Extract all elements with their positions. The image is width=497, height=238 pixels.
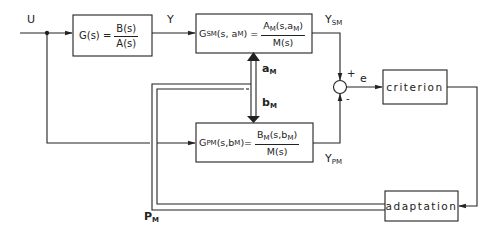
adaptation-label: adaptation (385, 191, 458, 221)
error-label: e (360, 73, 367, 84)
summing-junction (334, 81, 347, 94)
sm-output-label: YSM (325, 14, 342, 27)
criterion-label: criterion (383, 70, 447, 104)
param-a-label: aM (262, 63, 276, 76)
input-label: U (27, 14, 35, 25)
param-p-label: PM (144, 211, 159, 224)
criterion-output-line (447, 87, 477, 206)
series-model-fraction: AM(s,aM) M(s) (261, 21, 305, 48)
plant-fraction: B(s) A(s) (114, 24, 138, 49)
parallel-model-fraction: BM(s,bM) M(s) (255, 130, 299, 157)
sum-plus-sign: + (347, 69, 355, 79)
parallel-model-transfer-function: GPM(s,bM)= BM(s,bM) M(s) (199, 125, 299, 161)
pm-output-line (313, 94, 340, 143)
plant-output-label: Y (167, 14, 174, 25)
param-b-arrowhead (247, 116, 260, 123)
plant-transfer-function: G(s) = B(s) A(s) (79, 18, 138, 54)
param-b-label: bM (262, 97, 277, 110)
sum-minus-sign: - (346, 94, 350, 104)
sm-output-line (312, 33, 340, 80)
series-model-transfer-function: GSM(s, aM) = AM(s,aM) M(s) (199, 16, 305, 52)
pm-output-label: YPM (325, 153, 342, 166)
